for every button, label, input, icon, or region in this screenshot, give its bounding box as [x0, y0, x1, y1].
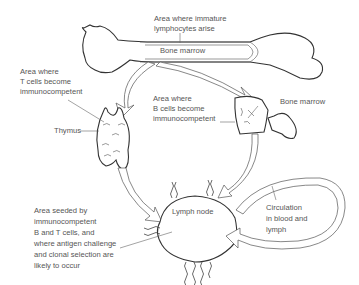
label-t-cell-area-3: immunocompetent: [20, 87, 83, 96]
arrow-thymus-to-node: [118, 168, 162, 222]
label-bone-marrow-right: Bone marrow: [280, 97, 326, 106]
label-seeded-area-5: and clonal selection are: [34, 250, 114, 259]
label-thymus: Thymus: [54, 126, 81, 135]
label-bone-marrow-top: Bone marrow: [160, 46, 206, 55]
immune-diagram: Area where immature lymphocytes arise Bo…: [0, 0, 359, 285]
label-seeded-area-4: where antigen challenge: [33, 239, 116, 248]
label-circulation-3: lymph: [266, 225, 286, 234]
label-immature-area: Area where immature: [154, 14, 227, 23]
thymus: [97, 108, 129, 170]
label-seeded-area-6: likely to occur: [34, 261, 80, 270]
label-t-cell-area: Area where: [20, 67, 59, 76]
label-t-cell-area-2: T cells become: [20, 77, 71, 86]
label-b-cell-area-2: B cells become: [153, 104, 205, 113]
label-circulation-2: in blood and: [266, 214, 307, 223]
label-lymph-node: Lymph node: [172, 207, 214, 216]
label-b-cell-area: Area where: [153, 94, 192, 103]
label-seeded-area: Area seeded by: [34, 206, 87, 215]
label-seeded-area-3: B and T cells, and: [34, 228, 95, 237]
label-circulation: Circulation: [266, 203, 302, 212]
label-immature-area-2: lymphocytes arise: [154, 24, 215, 33]
arrow-b-to-node: [218, 134, 258, 198]
label-b-cell-area-3: immunocompetent: [153, 114, 216, 123]
label-seeded-area-2: immunocompetent: [34, 217, 97, 226]
